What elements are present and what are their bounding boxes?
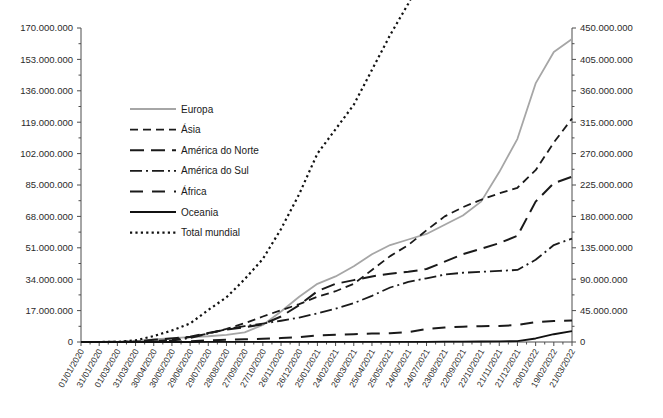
chart-legend: EuropaÁsiaAmérica do NorteAmérica do Sul… [130,104,259,239]
series-line-am-rica-do-sul [81,239,572,342]
left-axis-tick-label: 102.000.000 [20,148,73,159]
right-axis-tick-label: 405.000.000 [580,54,633,65]
left-axis-tick-label: 68.000.000 [25,211,73,222]
right-axis-tick-label: 0 [580,336,585,347]
left-axis-tick-label: 17.000.000 [25,305,73,316]
left-axis-tick-label: 153.000.000 [20,54,73,65]
right-axis-tick-label: 45.000.000 [580,305,628,316]
right-axis-tick-label: 90.000.000 [580,274,628,285]
legend-label-oceania: Oceania [181,207,219,218]
line-chart: 017.000.00034.000.00051.000.00068.000.00… [0,0,663,418]
right-axis-tick-label: 315.000.000 [580,117,633,128]
right-axis-tick-label: 360.000.000 [580,85,633,96]
right-axis-tick-label: 135.000.000 [580,242,633,253]
left-axis-tick-label: 170.000.000 [20,22,73,33]
right-axis-tick-label: 270.000.000 [580,148,633,159]
right-axis: 045.000.00090.000.000135.000.000180.000.… [572,22,633,347]
right-axis-tick-label: 450.000.000 [580,22,633,33]
right-axis-tick-label: 180.000.000 [580,211,633,222]
legend-label-am-rica-do-norte: América do Norte [181,145,259,156]
left-axis-tick-label: 136.000.000 [20,85,73,96]
left-axis-tick-label: 85.000.000 [25,179,73,190]
legend-label-total-mundial: Total mundial [181,227,240,238]
series-line--sia [81,119,572,342]
x-axis: 01/01/202031/01/202001/03/202031/03/2020… [56,342,577,389]
legend-label--frica: África [181,185,207,197]
legend-label-am-rica-do-sul: América do Sul [181,165,249,176]
legend-label--sia: Ásia [181,123,201,135]
left-axis-tick-label: 0 [68,336,73,347]
left-axis-tick-label: 51.000.000 [25,242,73,253]
right-axis-tick-label: 225.000.000 [580,179,633,190]
left-axis: 017.000.00034.000.00051.000.00068.000.00… [20,22,81,347]
chart-container: 017.000.00034.000.00051.000.00068.000.00… [0,0,663,418]
series-line-am-rica-do-norte [81,177,572,342]
left-axis-tick-label: 119.000.000 [21,117,73,128]
left-axis-tick-label: 34.000.000 [25,274,73,285]
legend-label-europa: Europa [181,104,214,115]
